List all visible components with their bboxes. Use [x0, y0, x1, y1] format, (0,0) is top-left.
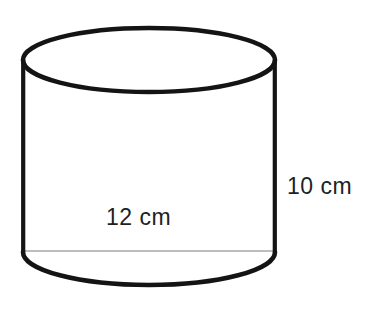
cylinder-drawing [0, 0, 371, 317]
diameter-label: 12 cm [106, 206, 171, 229]
cylinder-diagram: 12 cm 10 cm [0, 0, 371, 317]
height-label: 10 cm [287, 175, 352, 198]
cylinder-body-fill [23, 28, 275, 285]
